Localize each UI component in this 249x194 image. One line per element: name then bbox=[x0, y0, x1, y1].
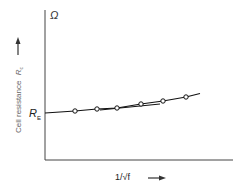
chart-canvas bbox=[0, 0, 249, 194]
intercept-symbol: R bbox=[29, 107, 37, 119]
y-unit-label: Ω bbox=[50, 9, 58, 21]
intercept-label: RE bbox=[29, 107, 41, 121]
data-points bbox=[73, 95, 188, 113]
y-axis-label-text: Cell resistance bbox=[14, 81, 23, 133]
y-arrow-icon bbox=[16, 37, 21, 55]
x-arrow-icon bbox=[148, 176, 166, 181]
x-axis-label: 1/√f bbox=[115, 172, 130, 182]
intercept-sub: E bbox=[37, 115, 41, 121]
data-curve bbox=[45, 94, 200, 114]
y-axis-label-symbol: R bbox=[14, 70, 23, 76]
y-axis-label-sub: c bbox=[18, 67, 24, 70]
tangent-line bbox=[100, 104, 160, 110]
y-axis-label: Cell resistance Rc bbox=[14, 67, 25, 133]
